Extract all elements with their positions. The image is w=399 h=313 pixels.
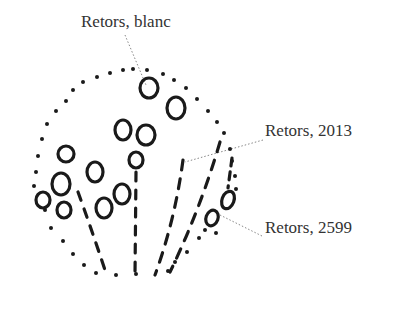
dashed-stems [78,142,232,275]
leader-lines [125,35,263,236]
plate-diagram [0,0,399,313]
